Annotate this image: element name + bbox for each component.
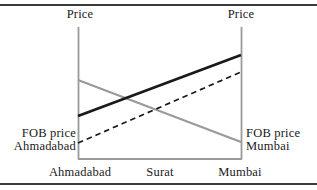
fob-price-ahmadabad-annotation: FOB price Ahmadabad xyxy=(4,127,76,153)
left-axis-price-label: Price xyxy=(60,8,100,21)
x-axis-category-mumbai: Mumbai xyxy=(208,165,272,179)
right-axis-price-label: Price xyxy=(221,8,261,21)
x-axis-category-ahmadabad: Ahmadabad xyxy=(30,165,130,179)
fob-price-mumbai-annotation: FOB price Mumbai xyxy=(246,127,317,153)
x-axis-category-surat: Surat xyxy=(130,165,190,179)
fob-price-mumbai-line1: FOB price xyxy=(246,126,300,140)
gray-declining-price-line xyxy=(78,80,241,142)
figure-container: Price Price FOB price Ahmadabad FOB pric… xyxy=(0,0,317,190)
fob-price-ahmadabad-line2: Ahmadabad xyxy=(4,140,76,153)
fob-price-mumbai-line2: Mumbai xyxy=(246,140,317,153)
fob-price-ahmadabad-line1: FOB price xyxy=(22,126,76,140)
price-arbitrage-plot xyxy=(0,0,317,190)
